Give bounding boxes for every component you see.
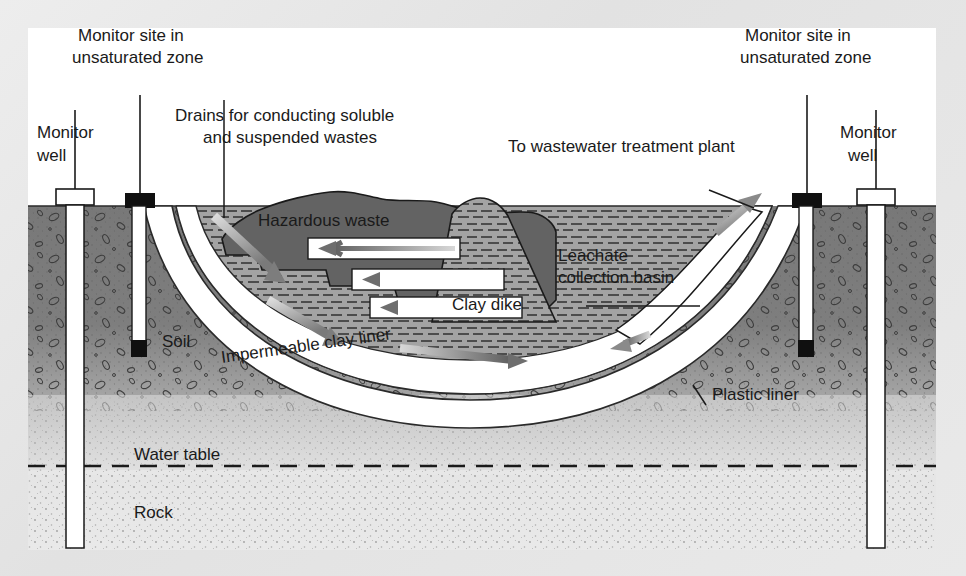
label-to-wastewater: To wastewater treatment plant (508, 137, 735, 156)
label-monitor-well-right-2: well (847, 146, 877, 165)
drain-pipe-middle (352, 269, 504, 290)
label-drains-2: and suspended wastes (203, 128, 377, 147)
figure-panel: Monitor site in unsaturated zone Monitor… (0, 0, 966, 576)
label-hazardous-waste: Hazardous waste (258, 211, 389, 230)
label-monitor-site-right-2: unsaturated zone (740, 48, 871, 67)
label-water-table: Water table (134, 445, 220, 464)
label-leachate-2: collection basin (558, 268, 674, 287)
label-leachate-1: Leachate (558, 246, 628, 265)
landfill-diagram: Monitor site in unsaturated zone Monitor… (0, 0, 966, 576)
label-rock: Rock (134, 503, 173, 522)
label-soil: Soil (162, 332, 190, 351)
label-plastic-liner: Plastic liner (712, 385, 799, 404)
label-monitor-well-left-2: well (36, 146, 66, 165)
drain-pipe-upper (308, 238, 460, 259)
label-monitor-well-left-1: Monitor (37, 123, 94, 142)
label-monitor-site-left-1: Monitor site in (78, 26, 184, 45)
label-drains-1: Drains for conducting soluble (175, 106, 394, 125)
label-clay-dike: Clay dike (452, 295, 522, 314)
label-monitor-well-right-1: Monitor (840, 123, 897, 142)
label-monitor-site-right-1: Monitor site in (745, 26, 851, 45)
label-monitor-site-left-2: unsaturated zone (72, 48, 203, 67)
